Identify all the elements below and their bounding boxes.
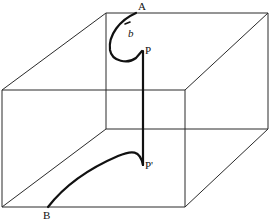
tangent-tick-b xyxy=(125,22,130,24)
box-diagram: A b P P' B xyxy=(0,0,270,221)
label-b-lower: b xyxy=(128,27,134,39)
depth-edge-bottom-right xyxy=(185,129,268,207)
label-p-prime: P' xyxy=(145,159,153,171)
depth-edge-top-left xyxy=(2,13,106,90)
label-b: B xyxy=(43,209,50,221)
label-p: P xyxy=(145,44,151,56)
front-face xyxy=(2,90,185,207)
label-a: A xyxy=(138,0,146,12)
depth-edge-bottom-left xyxy=(2,129,106,207)
curve-a-to-p xyxy=(110,13,142,61)
diagram-canvas: A b P P' B xyxy=(0,0,270,221)
depth-edge-top-right xyxy=(185,13,268,90)
depth-edges xyxy=(2,13,268,207)
curve-p-prime-to-b xyxy=(48,152,143,207)
